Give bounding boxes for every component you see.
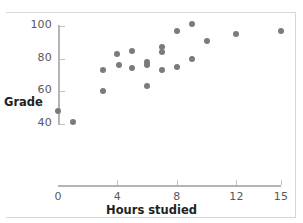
data-point — [159, 67, 165, 73]
data-point — [189, 21, 195, 27]
data-point — [129, 48, 135, 54]
data-point — [100, 88, 106, 94]
scatter-plot-figure: 406080100 0481215 Grade Hours studied — [0, 0, 303, 223]
data-point — [116, 62, 122, 68]
data-point — [278, 28, 284, 34]
data-point — [233, 31, 239, 37]
data-point — [174, 64, 180, 70]
data-point — [174, 28, 180, 34]
data-point — [129, 65, 135, 71]
data-point — [159, 49, 165, 55]
data-point — [114, 51, 120, 57]
data-point — [204, 38, 210, 44]
plot-data-area — [0, 0, 303, 223]
data-point — [144, 62, 150, 68]
data-point — [55, 108, 61, 114]
data-point — [100, 67, 106, 73]
data-point — [70, 119, 76, 125]
data-point — [189, 56, 195, 62]
data-point — [144, 83, 150, 89]
